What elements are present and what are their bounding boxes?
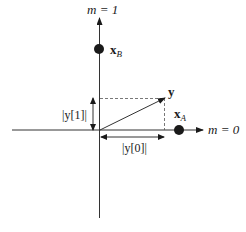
- point-x-b: [94, 44, 104, 54]
- vector-y: [100, 98, 165, 130]
- point-x-a: [174, 125, 184, 135]
- vertical-axis-label: m = 1: [87, 2, 118, 17]
- signal-space-diagram: m = 1 m = 0 xB xA y |y[1]| |y[0]|: [0, 0, 246, 232]
- vector-y-label: y: [168, 84, 175, 99]
- x-b-label: xB: [110, 42, 123, 59]
- horizontal-axis-label: m = 0: [208, 122, 240, 137]
- y0-magnitude-label: |y[0]|: [122, 141, 147, 155]
- x-a-label: xA: [174, 106, 187, 123]
- y1-magnitude-label: |y[1]|: [62, 108, 87, 122]
